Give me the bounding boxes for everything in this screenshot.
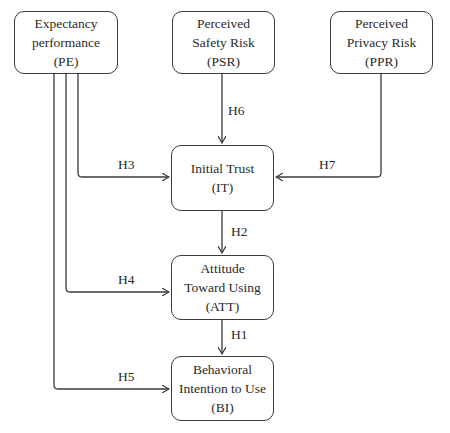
node-att-line1: Attitude [200, 259, 244, 278]
node-ppr-abbr: (PPR) [365, 52, 398, 71]
node-pe-line1: Expectancy [35, 14, 98, 33]
node-it-line1: Initial Trust [191, 159, 254, 178]
node-att-line2: Toward Using [184, 278, 261, 297]
node-ppr-line2: Privacy Risk [347, 33, 416, 52]
node-psr-line2: Safety Risk [192, 33, 255, 52]
node-perceived-privacy-risk: Perceived Privacy Risk (PPR) [330, 11, 433, 74]
edge-label-h1: H1 [231, 327, 248, 342]
edge-label-h4: H4 [118, 272, 135, 287]
node-bi-line2: Intention to Use [179, 379, 266, 398]
edge-label-h6: H6 [228, 103, 245, 118]
node-pe-abbr: (PE) [54, 52, 79, 71]
node-initial-trust: Initial Trust (IT) [171, 145, 274, 211]
node-ppr-line1: Perceived [355, 14, 408, 33]
node-psr-abbr: (PSR) [207, 52, 240, 71]
node-expectancy-performance: Expectancy performance (PE) [14, 11, 118, 74]
edge-label-h2: H2 [231, 224, 248, 239]
node-bi-line1: Behavioral [193, 360, 252, 379]
node-behavioral-intention: Behavioral Intention to Use (BI) [171, 356, 274, 421]
node-psr-line1: Perceived [197, 14, 250, 33]
edge-label-h7: H7 [319, 157, 336, 172]
node-att-abbr: (ATT) [206, 297, 240, 316]
edge-label-h3: H3 [118, 157, 135, 172]
node-bi-abbr: (BI) [211, 398, 234, 417]
node-pe-line2: performance [32, 33, 100, 52]
edge-label-h5: H5 [118, 369, 135, 384]
node-attitude-toward-using: Attitude Toward Using (ATT) [171, 255, 274, 320]
node-perceived-safety-risk: Perceived Safety Risk (PSR) [172, 11, 275, 74]
node-it-abbr: (IT) [212, 178, 234, 197]
